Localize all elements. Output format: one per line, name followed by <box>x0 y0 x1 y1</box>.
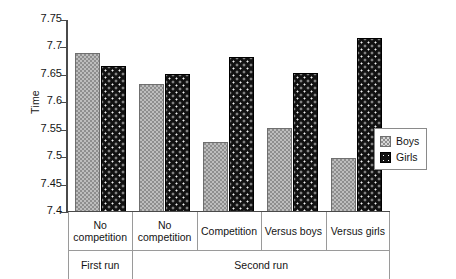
y-axis-tick-mark <box>60 130 68 131</box>
bar-group <box>260 20 324 212</box>
x-axis-category: No competition <box>68 212 132 250</box>
x-axis-cell-divider <box>197 212 198 250</box>
y-axis-tick-label: 7.4 <box>6 204 62 216</box>
bar-group <box>324 20 388 212</box>
legend-swatch-girls-icon <box>380 152 391 163</box>
legend-item-girls: Girls <box>380 149 419 165</box>
x-axis-category: Competition <box>197 212 261 250</box>
bar-girls <box>101 66 126 212</box>
x-axis-category-label: Competition <box>201 225 257 238</box>
y-axis-tick-label: 7.65 <box>6 67 62 79</box>
y-axis-tick-label: 7.45 <box>6 177 62 189</box>
x-axis-category: No competition <box>132 212 196 250</box>
legend: Boys Girls <box>374 128 427 170</box>
bar-girls <box>293 73 318 212</box>
bar-boys <box>139 84 164 212</box>
x-axis-cell-divider <box>326 212 327 250</box>
y-axis-tick-mark <box>60 47 68 48</box>
bar-boys <box>267 128 292 212</box>
x-axis-cell-divider <box>261 212 262 250</box>
x-axis-cell-divider <box>68 251 69 279</box>
bar-girls <box>229 57 254 212</box>
bar-girls <box>357 38 382 212</box>
bar-group <box>196 20 260 212</box>
legend-label-girls: Girls <box>396 151 418 163</box>
bar-group <box>132 20 196 212</box>
x-axis-group-row: First runSecond run <box>68 251 390 278</box>
bar-group <box>68 20 132 212</box>
y-axis-tick-mark <box>60 185 68 186</box>
y-axis-tick-mark <box>60 212 68 213</box>
bar-girls <box>165 74 190 212</box>
bar-groups <box>68 20 388 212</box>
y-axis-tick-label: 7.6 <box>6 94 62 106</box>
x-axis-category-label: No competition <box>69 219 131 244</box>
x-axis-group-label: Second run <box>234 259 288 271</box>
x-axis-category: Versus girls <box>326 212 390 250</box>
x-axis-category-label: No competition <box>133 219 195 244</box>
y-axis-tick-mark <box>60 75 68 76</box>
x-axis-cell-divider <box>132 251 133 279</box>
x-axis-group-label: First run <box>81 259 120 271</box>
x-axis: No competitionNo competitionCompetitionV… <box>68 212 390 278</box>
x-axis-category-row: No competitionNo competitionCompetitionV… <box>68 212 390 250</box>
x-axis-group: Second run <box>132 251 390 278</box>
y-axis-tick-label: 7.5 <box>6 149 62 161</box>
bar-boys <box>75 53 100 212</box>
legend-swatch-boys-icon <box>380 136 391 147</box>
y-axis-tick-mark <box>60 20 68 21</box>
y-axis-tick-label: 7.55 <box>6 122 62 134</box>
y-axis-tick-label: 7.7 <box>6 39 62 51</box>
x-axis-category: Versus boys <box>261 212 325 250</box>
y-axis-tick-mark <box>60 157 68 158</box>
x-axis-cell-divider <box>389 212 390 250</box>
x-axis-cell-divider <box>68 212 69 250</box>
bar-boys <box>203 142 228 212</box>
x-axis-group: First run <box>68 251 132 278</box>
x-axis-category-label: Versus girls <box>331 225 385 238</box>
y-axis-tick-label: 7.75 <box>6 12 62 24</box>
x-axis-category-label: Versus boys <box>265 225 322 238</box>
plot-area <box>68 20 388 212</box>
x-axis-cell-divider <box>389 251 390 279</box>
y-axis-tick-mark <box>60 102 68 103</box>
legend-label-boys: Boys <box>396 135 419 147</box>
legend-item-boys: Boys <box>380 133 419 149</box>
x-axis-cell-divider <box>132 212 133 250</box>
bar-boys <box>331 158 356 212</box>
